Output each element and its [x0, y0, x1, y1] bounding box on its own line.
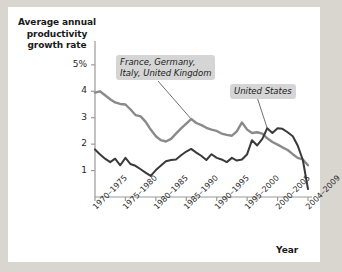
annotation-line: Italy, United Kingdom [120, 68, 211, 78]
annotation-leader-line [257, 97, 267, 128]
y-tick-label: 3 [61, 112, 87, 122]
annotation-united-states: United States [230, 84, 296, 99]
x-axis-title: Year [276, 245, 298, 255]
annotation-leader-line [158, 81, 191, 119]
annotation-line: France, Germany, [120, 57, 196, 67]
chart-figure: Average annual productivity growth rate … [8, 7, 320, 262]
y-tick-label: 2 [61, 138, 87, 148]
y-tick-label: 4 [61, 85, 87, 95]
plot-area [8, 7, 320, 262]
annotation-europe: France, Germany,Italy, United Kingdom [116, 55, 215, 80]
y-tick-label: 1 [61, 165, 87, 175]
y-tick-label: 5% [61, 59, 87, 69]
series-line-europe [95, 91, 308, 165]
annotation-line: United States [234, 86, 292, 96]
